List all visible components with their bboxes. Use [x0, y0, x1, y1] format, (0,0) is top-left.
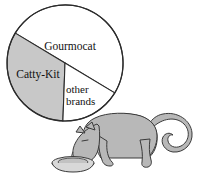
pie-chart-figure: Gourmocat Catty-Kit other brands	[0, 0, 205, 176]
pie-label-other-brands-line2: brands	[66, 95, 95, 107]
figure-canvas: Gourmocat Catty-Kit other brands	[0, 0, 205, 176]
pie-chart: Gourmocat Catty-Kit other brands	[7, 5, 123, 121]
pie-label-other-brands-line1: other	[66, 83, 89, 95]
pie-label-gourmocat: Gourmocat	[44, 40, 97, 52]
pie-label-catty-kit: Catty-Kit	[16, 68, 60, 81]
